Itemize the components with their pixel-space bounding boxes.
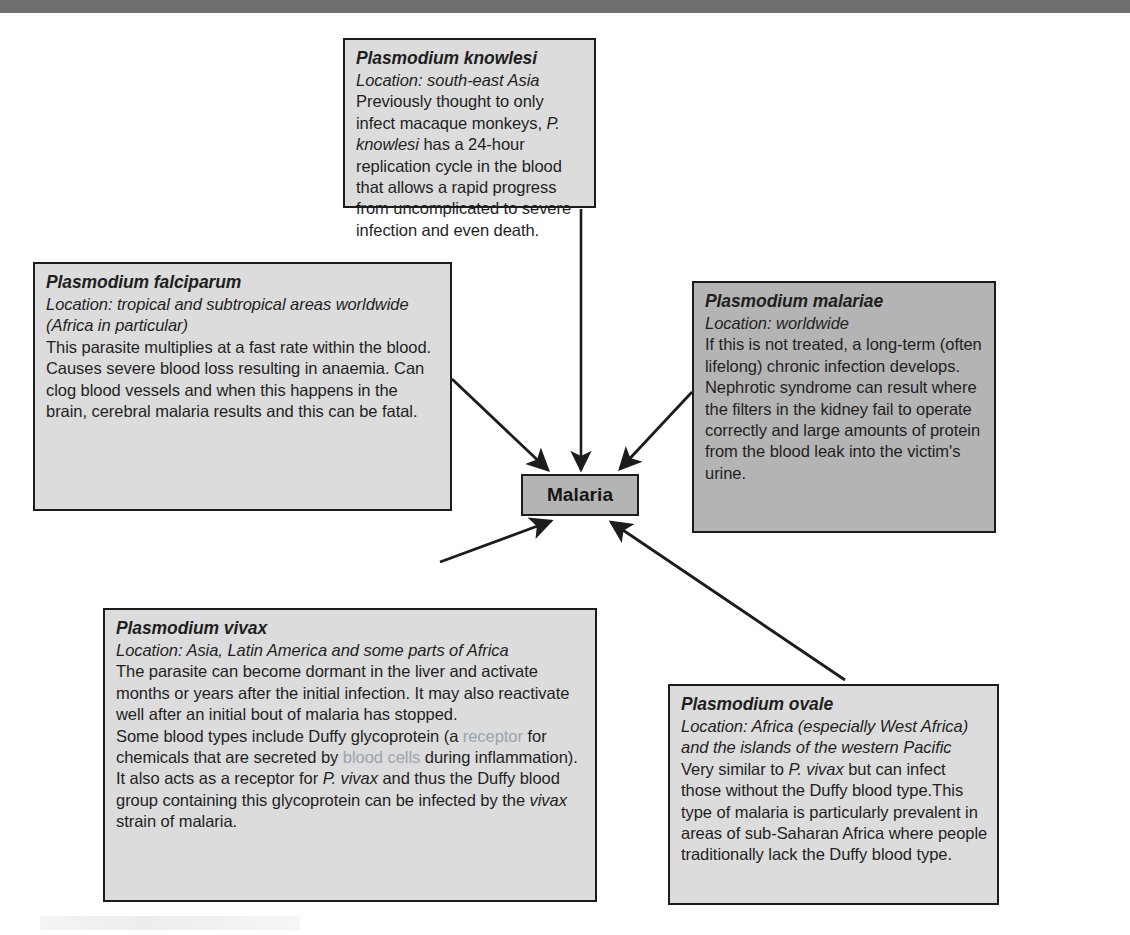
diagram-canvas: Plasmodium knowlesi Location: south-east… — [0, 0, 1130, 935]
card-plasmodium-vivax: Plasmodium vivax Location: Asia, Latin A… — [103, 608, 597, 902]
vivax-paragraph-1: The parasite can become dormant in the l… — [116, 661, 586, 725]
species-location-vivax: Location: Asia, Latin America and some p… — [116, 640, 586, 661]
card-plasmodium-malariae: Plasmodium malariae Location: worldwide … — [692, 281, 996, 533]
species-location-malariae: Location: worldwide — [705, 313, 985, 334]
vivax-p2-italic-2: vivax — [530, 791, 567, 809]
species-location-falciparum: Location: tropical and subtropical areas… — [46, 294, 441, 337]
species-location-knowlesi: Location: south-east Asia — [356, 70, 585, 91]
central-node-malaria: Malaria — [521, 474, 639, 516]
card-plasmodium-ovale: Plasmodium ovale Location: Africa (espec… — [668, 684, 999, 905]
page-footer-artifact — [40, 916, 300, 930]
arrow-ovale-to-malaria — [611, 522, 845, 680]
vivax-p2-part1: Some blood types include Duffy glycoprot… — [116, 727, 463, 745]
species-description-ovale: Very similar to P. vivax but can infect … — [681, 759, 988, 866]
species-location-ovale: Location: Africa (especially West Africa… — [681, 716, 988, 759]
knowlesi-desc-part1: Previously thought to only infect macaqu… — [356, 92, 546, 131]
page-top-bar — [0, 0, 1130, 13]
species-name-falciparum: Plasmodium falciparum — [46, 271, 441, 294]
species-description-falciparum: This parasite multiplies at a fast rate … — [46, 337, 441, 423]
arrow-vivax-to-malaria — [440, 521, 551, 562]
species-name-malariae: Plasmodium malariae — [705, 290, 985, 313]
species-description-knowlesi: Previously thought to only infect macaqu… — [356, 91, 585, 241]
vivax-paragraph-2: Some blood types include Duffy glycoprot… — [116, 726, 586, 833]
vivax-p2-highlight-blood-cells: blood cells — [343, 748, 420, 766]
card-plasmodium-falciparum: Plasmodium falciparum Location: tropical… — [33, 262, 452, 511]
card-plasmodium-knowlesi: Plasmodium knowlesi Location: south-east… — [343, 38, 596, 208]
central-node-label: Malaria — [547, 484, 613, 506]
ovale-desc-part1: Very similar to — [681, 760, 788, 778]
ovale-desc-italic: P. vivax — [788, 760, 843, 778]
vivax-p2-italic-1: P. vivax — [323, 769, 378, 787]
vivax-p2-highlight-receptor: receptor — [463, 727, 523, 745]
species-name-ovale: Plasmodium ovale — [681, 693, 988, 716]
arrow-falciparum-to-malaria — [452, 379, 548, 470]
vivax-p2-part5: strain of malaria. — [116, 812, 237, 830]
arrow-malariae-to-malaria — [620, 392, 692, 469]
species-description-malariae: If this is not treated, a long-term (oft… — [705, 334, 985, 484]
species-name-knowlesi: Plasmodium knowlesi — [356, 47, 585, 70]
species-name-vivax: Plasmodium vivax — [116, 617, 586, 640]
